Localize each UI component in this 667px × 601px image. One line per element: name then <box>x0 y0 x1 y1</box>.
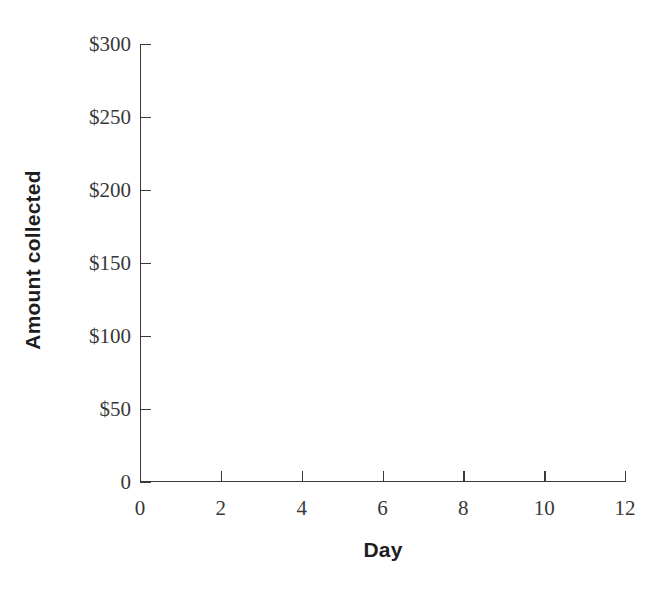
x-tick-mark <box>221 471 222 482</box>
x-tick-label: 0 <box>135 496 146 521</box>
x-tick-label: 10 <box>534 496 555 521</box>
x-tick-label: 6 <box>377 496 388 521</box>
x-tick-label: 2 <box>216 496 227 521</box>
x-tick-mark <box>463 471 464 482</box>
y-tick-mark <box>140 44 151 45</box>
y-tick-label: $300 <box>89 32 131 57</box>
y-tick-mark <box>140 482 151 483</box>
y-tick-label: $250 <box>89 105 131 130</box>
plot-area: 0$50$100$150$200$250$300 024681012 <box>140 44 625 482</box>
y-tick-mark <box>140 409 151 410</box>
y-tick-mark <box>140 263 151 264</box>
x-tick-mark <box>625 471 626 482</box>
x-tick-mark <box>383 471 384 482</box>
data-series-layer <box>140 44 625 482</box>
y-tick-mark <box>140 190 151 191</box>
y-tick-label: $200 <box>89 178 131 203</box>
y-tick-mark <box>140 117 151 118</box>
x-tick-mark <box>302 471 303 482</box>
y-tick-label: 0 <box>121 470 132 495</box>
x-axis-title: Day <box>363 538 402 562</box>
x-tick-mark <box>544 471 545 482</box>
x-tick-label: 8 <box>458 496 469 521</box>
x-tick-label: 12 <box>615 496 636 521</box>
y-axis-title: Amount collected <box>21 170 45 349</box>
y-tick-label: $100 <box>89 324 131 349</box>
x-tick-label: 4 <box>296 496 307 521</box>
chart-figure: Amount collected Day 0$50$100$150$200$25… <box>0 0 667 601</box>
y-tick-mark <box>140 336 151 337</box>
y-tick-label: $50 <box>100 397 132 422</box>
y-tick-label: $150 <box>89 251 131 276</box>
